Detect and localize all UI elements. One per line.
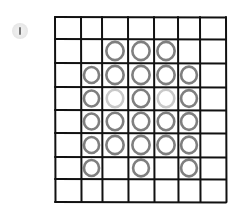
grid-cell[interactable]: [102, 17, 128, 39]
grid-line-horizontal: [55, 87, 226, 88]
grid-cell[interactable]: [128, 179, 154, 202]
grid-cell[interactable]: [200, 17, 226, 39]
grid-cell[interactable]: [200, 39, 226, 63]
grid-cell[interactable]: [200, 157, 226, 179]
grid-cell[interactable]: [102, 179, 128, 202]
grid-line-vertical: [226, 17, 227, 202]
grid-cell[interactable]: [200, 179, 226, 202]
grid-board: [0, 0, 239, 217]
grid-line-horizontal: [55, 110, 226, 111]
grid-cell[interactable]: [200, 133, 226, 157]
grid-cell[interactable]: [55, 110, 81, 133]
grid-cell[interactable]: [55, 133, 81, 157]
grid-cell[interactable]: [200, 87, 226, 110]
grid-cell[interactable]: [200, 110, 226, 133]
grid-cell[interactable]: [102, 157, 128, 179]
grid-cell[interactable]: [55, 179, 81, 202]
grid-cell[interactable]: [178, 179, 200, 202]
grid-svg: [0, 0, 239, 217]
grid-cell[interactable]: [154, 157, 178, 179]
grid-cell[interactable]: [154, 17, 178, 39]
grid-cell[interactable]: [81, 179, 102, 202]
grid-cell[interactable]: [81, 39, 102, 63]
grid-cell[interactable]: [81, 17, 102, 39]
grid-cell[interactable]: [128, 17, 154, 39]
grid-cell[interactable]: [55, 63, 81, 87]
grid-cell[interactable]: [178, 17, 200, 39]
grid-cell[interactable]: [178, 39, 200, 63]
grid-cell[interactable]: [154, 179, 178, 202]
grid-line-horizontal: [55, 39, 226, 40]
grid-cell[interactable]: [200, 63, 226, 87]
grid-cell[interactable]: [55, 17, 81, 39]
grid-line-horizontal: [55, 133, 226, 134]
grid-cell[interactable]: [55, 157, 81, 179]
grid-line-horizontal: [55, 179, 226, 180]
grid-cell[interactable]: [55, 39, 81, 63]
grid-line-horizontal: [55, 202, 226, 203]
grid-line-horizontal: [55, 157, 226, 158]
grid-line-horizontal: [55, 63, 226, 64]
grid-line-horizontal: [55, 17, 226, 18]
grid-cell[interactable]: [55, 87, 81, 110]
